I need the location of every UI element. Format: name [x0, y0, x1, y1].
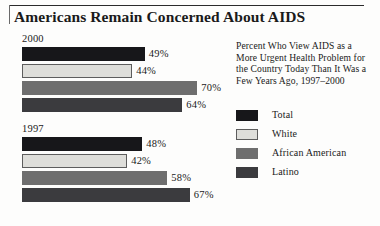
legend-label-total: Total [272, 109, 293, 121]
bar-value-1997-white: 42% [131, 154, 151, 168]
bar-1997-latino [22, 188, 190, 202]
bar-value-1997-latino: 67% [194, 188, 214, 202]
bar-row: 42% [0, 154, 232, 168]
chart-legend: Total White African American Latino [236, 110, 376, 186]
legend-swatch-latino [236, 167, 258, 178]
bar-2000-white [22, 64, 132, 78]
legend-swatch-white [236, 129, 258, 140]
legend-label-white: White [272, 128, 297, 140]
bar-value-2000-latino: 64% [186, 98, 206, 112]
bar-2000-african-american [22, 81, 197, 95]
group-label-2000: 2000 [22, 33, 44, 45]
bar-1997-white [22, 154, 127, 168]
legend-item-latino: Latino [236, 167, 376, 178]
legend-item-white: White [236, 129, 376, 140]
bar-row: 49% [0, 47, 232, 61]
bar-row: 64% [0, 98, 232, 112]
bar-value-1997-african-american: 58% [171, 171, 191, 185]
bar-list-2000: 49% 44% 70% 64% [0, 47, 232, 115]
bar-value-2000-white: 44% [136, 64, 156, 78]
title-block: Americans Remain Concerned About AIDS [9, 5, 364, 31]
chart-title: Americans Remain Concerned About AIDS [14, 7, 305, 27]
legend-swatch-african-american [236, 148, 258, 159]
bar-1997-african-american [22, 171, 167, 185]
chart-plot-area: 2000 49% 44% 70% 64% 1997 [0, 33, 232, 223]
legend-label-african-american: African American [272, 147, 346, 159]
bar-list-1997: 48% 42% 58% 67% [0, 137, 232, 205]
chart-caption: Percent Who View AIDS as a More Urgent H… [236, 40, 372, 86]
bar-row: 58% [0, 171, 232, 185]
bar-row: 70% [0, 81, 232, 95]
legend-item-african-american: African American [236, 148, 376, 159]
bar-value-2000-total: 49% [149, 47, 169, 61]
bar-value-2000-african-american: 70% [201, 81, 221, 95]
bar-value-1997-total: 48% [146, 137, 166, 151]
title-rule [9, 5, 364, 6]
group-label-1997: 1997 [22, 123, 44, 135]
title-left-tick [9, 5, 10, 24]
legend-swatch-total [236, 110, 258, 121]
bar-row: 48% [0, 137, 232, 151]
legend-label-latino: Latino [272, 166, 299, 178]
legend-item-total: Total [236, 110, 376, 121]
bar-row: 44% [0, 64, 232, 78]
bar-row: 67% [0, 188, 232, 202]
bar-2000-total [22, 47, 145, 61]
bar-1997-total [22, 137, 142, 151]
bar-2000-latino [22, 98, 182, 112]
